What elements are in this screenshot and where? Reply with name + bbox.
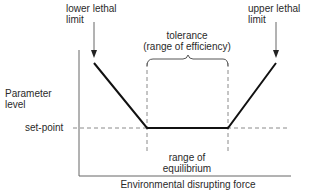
upper-lethal-arrow-icon — [273, 50, 279, 58]
upper-lethal-label: upper lethal — [248, 3, 300, 14]
tolerance-brace — [147, 55, 228, 66]
y-axis-label-line2: level — [5, 99, 26, 110]
lower-lethal-arrow-icon — [91, 50, 97, 58]
equilibrium-label-line1: range of — [137, 152, 237, 163]
x-axis-label: Environmental disrupting force — [88, 179, 288, 190]
y-axis-label-line1: Parameter — [5, 88, 52, 99]
set-point-label: set-point — [25, 122, 63, 133]
response-curve — [94, 63, 276, 128]
tolerance-label: tolerance — [137, 30, 237, 41]
equilibrium-label-line2: equilibrium — [137, 163, 237, 174]
lower-lethal-label: lower lethal — [66, 3, 117, 14]
upper-lethal-label-line2: limit — [248, 14, 266, 25]
lower-lethal-label-line2: limit — [66, 14, 84, 25]
tolerance-sublabel: (range of efficiency) — [127, 41, 247, 52]
